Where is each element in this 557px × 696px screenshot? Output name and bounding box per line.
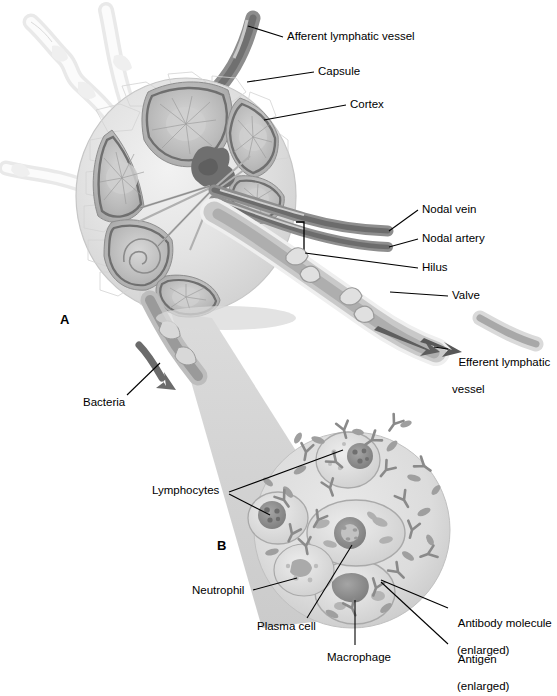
label-macrophage: Macrophage — [327, 651, 391, 665]
label-antibody-line1: Antibody molecule — [458, 617, 552, 629]
leader-bacteria — [127, 363, 160, 395]
label-efferent-lymphatic-vessel: Efferent lymphatic vessel — [452, 342, 550, 410]
label-cortex: Cortex — [350, 98, 384, 112]
label-antigen-line1: Antigen — [458, 653, 497, 665]
leader-hilus — [305, 253, 418, 268]
label-efferent-line2: vessel — [452, 383, 550, 397]
label-lymphocytes: Lymphocytes — [152, 484, 219, 498]
label-afferent-lymphatic-vessel: Afferent lymphatic vessel — [287, 30, 415, 44]
label-capsule: Capsule — [318, 65, 360, 79]
label-valve: Valve — [452, 289, 480, 303]
leader-valve — [390, 292, 448, 296]
lymphocyte-left — [248, 492, 308, 544]
label-bacteria: Bacteria — [83, 396, 125, 410]
panel-marker-a: A — [60, 312, 69, 327]
panel-marker-b: B — [217, 538, 226, 553]
leader-nodal-vein — [389, 210, 418, 231]
label-nodal-vein: Nodal vein — [422, 203, 476, 217]
leader-nodal-artery — [389, 239, 418, 247]
label-hilus: Hilus — [422, 261, 448, 275]
label-antigen: Antigen (enlarged) — [452, 639, 509, 696]
leader-capsule — [247, 72, 314, 82]
label-plasma-cell: Plasma cell — [257, 620, 316, 634]
afferent-lymphatic-vessel-shape — [214, 18, 253, 92]
panel-a-lymph-node — [6, 10, 536, 390]
label-efferent-line1: Efferent lymphatic — [458, 356, 550, 368]
label-antigen-line2: (enlarged) — [452, 680, 509, 694]
leader-cortex — [264, 105, 346, 120]
label-neutrophil: Neutrophil — [192, 584, 244, 598]
label-nodal-artery: Nodal artery — [422, 232, 485, 246]
